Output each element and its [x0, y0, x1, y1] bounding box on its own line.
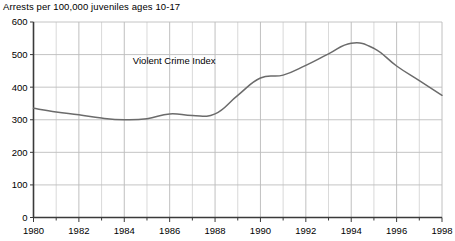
x-axis-tick-label: 1998 [431, 225, 452, 236]
x-axis-tick-label: 1988 [204, 225, 225, 236]
x-axis-tick-label: 1990 [250, 225, 271, 236]
chart-figure: Arrests per 100,000 juveniles ages 10-17… [0, 0, 455, 241]
line-chart-svg: 0100200300400500600 19801982198419861988… [0, 0, 455, 241]
y-axis-tick-label: 600 [12, 16, 28, 27]
x-axis-tick-label: 1980 [23, 225, 44, 236]
y-axis-tick-label: 400 [12, 82, 28, 93]
y-axis-tick-labels: 0100200300400500600 [12, 16, 28, 223]
y-axis-tick-label: 500 [12, 49, 28, 60]
x-axis-tick-label: 1992 [295, 225, 316, 236]
x-axis-tick-label: 1986 [159, 225, 180, 236]
x-axis-tick-label: 1996 [386, 225, 407, 236]
series-annotation-label: Violent Crime Index [133, 55, 216, 66]
x-axis-tick-label: 1982 [68, 225, 89, 236]
y-axis-tick-label: 100 [12, 179, 28, 190]
chart-annotations: Violent Crime Index [133, 55, 216, 66]
y-axis-tick-label: 200 [12, 147, 28, 158]
y-axis-tick-label: 0 [22, 212, 27, 223]
x-axis-tick-label: 1984 [114, 225, 135, 236]
y-axis-tick-label: 300 [12, 114, 28, 125]
plot-area: 0100200300400500600 19801982198419861988… [0, 0, 455, 241]
x-axis-tick-labels: 1980198219841986198819901992199419961998 [23, 225, 453, 236]
x-axis-tick-label: 1994 [341, 225, 362, 236]
